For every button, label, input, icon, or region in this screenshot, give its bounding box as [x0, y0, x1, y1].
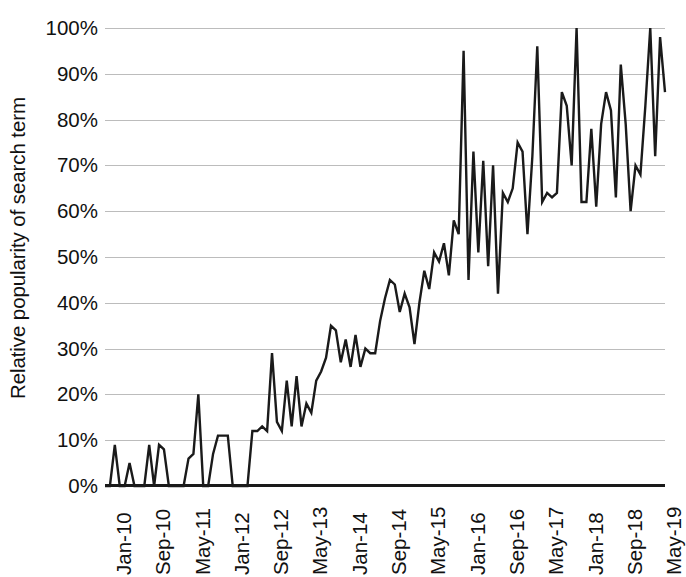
x-tick-label-text: May-11 — [191, 508, 215, 575]
x-tick-label-text: Sep-18 — [623, 509, 647, 575]
x-tick-label-text: Sep-12 — [269, 509, 293, 575]
y-tick-label: 70% — [57, 153, 98, 177]
x-tick-label-text: Jan-16 — [466, 512, 490, 575]
x-tick-label-text: Jan-14 — [348, 512, 372, 575]
y-tick-label: 100% — [46, 16, 98, 40]
x-tick-label-text: May-19 — [662, 507, 686, 575]
y-tick-label: 50% — [57, 245, 98, 269]
y-tick-label: 20% — [57, 382, 98, 406]
x-tick-label-text: May-17 — [544, 507, 568, 575]
y-tick-label: 30% — [57, 337, 98, 361]
series-polyline — [105, 28, 665, 486]
y-tick-label: 80% — [57, 108, 98, 132]
y-axis-title-text: Relative popularity of search term — [6, 97, 30, 399]
x-tick-label-text: Jan-10 — [112, 512, 136, 575]
plot-area — [105, 28, 665, 486]
x-tick-label-text: Sep-16 — [505, 509, 529, 575]
x-tick-label-text: Jan-18 — [584, 512, 608, 575]
y-tick-label: 60% — [57, 199, 98, 223]
y-tick-label: 90% — [57, 62, 98, 86]
x-tick-label-text: Sep-10 — [151, 509, 175, 575]
x-tick-label-text: Jan-12 — [230, 512, 254, 575]
x-tick-label-text: May-15 — [426, 507, 450, 575]
x-tick-label-text: Sep-14 — [387, 509, 411, 575]
x-axis-line — [105, 484, 665, 487]
y-axis-tick-labels: 0%10%20%30%40%50%60%70%80%90%100% — [36, 0, 102, 495]
y-tick-label: 0% — [68, 474, 98, 498]
x-axis-tick-labels: Jan-10Sep-10May-11Jan-12Sep-12May-13Jan-… — [105, 489, 665, 577]
y-axis-title: Relative popularity of search term — [0, 0, 36, 495]
y-tick-label: 40% — [57, 291, 98, 315]
y-tick-label: 10% — [57, 428, 98, 452]
series-line — [105, 28, 665, 486]
x-tick-label-text: May-13 — [308, 507, 332, 575]
